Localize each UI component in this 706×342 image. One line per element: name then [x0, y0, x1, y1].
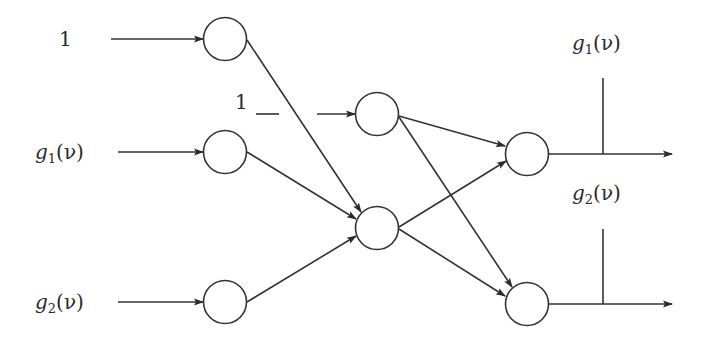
bias-label: 1: [235, 92, 248, 112]
input-label-1: 1: [59, 29, 72, 49]
output-label-g1: g1(ν): [572, 33, 621, 56]
edge-L1b-L2b: [247, 152, 356, 219]
edge-L2b-L3b: [399, 229, 505, 296]
edge-L1c-L2b: [247, 236, 356, 302]
input-label-g2: g2(ν): [35, 292, 84, 315]
node-L1-b: [204, 131, 247, 174]
input-label-g1: g1(ν): [35, 142, 84, 165]
node-L1-c: [204, 281, 247, 324]
output-label-g2: g2(ν): [572, 183, 621, 206]
node-L2-b: [356, 207, 399, 250]
node-L2-a: [356, 93, 399, 136]
node-L1-a: [204, 18, 247, 61]
node-L3-b: [506, 283, 549, 326]
edge-L2b-L3a: [399, 161, 506, 227]
node-L3-a: [506, 133, 549, 176]
